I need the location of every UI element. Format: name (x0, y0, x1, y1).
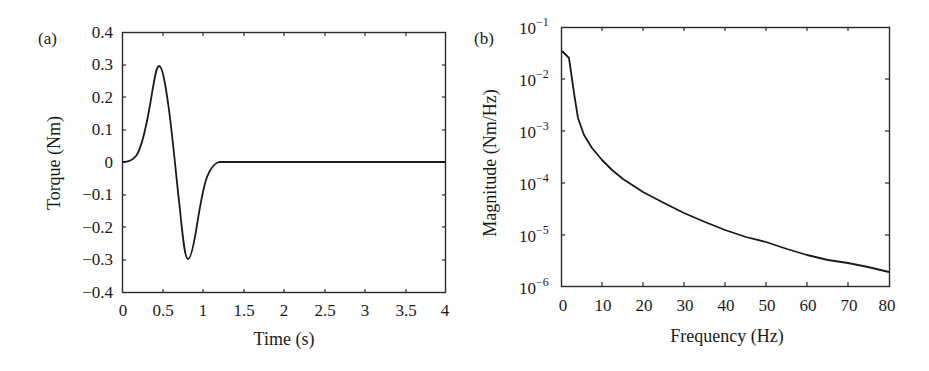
x-tick-label: 20 (636, 296, 653, 315)
y-tick-label: −0.3 (82, 250, 113, 269)
panel-label-b: (b) (474, 29, 494, 48)
y-axis-label-b: Magnitude (Nm/Hz) (480, 89, 501, 236)
y-tick-label: 10−4 (519, 171, 549, 194)
x-tick-label: 30 (677, 296, 694, 315)
x-tick-label: 0.5 (152, 301, 173, 320)
x-tick-label: 1.5 (233, 301, 254, 320)
x-tick-labels-a: 0 0.5 1 1.5 2 2.5 3 3.5 4 (119, 301, 450, 320)
x-tick-label: 80 (879, 296, 896, 315)
x-tick-label: 10 (595, 296, 612, 315)
chart-b: (b) 10−1 10−2 10−3 10−4 10−5 10−6 Magnit… (474, 15, 896, 347)
magnitude-curve (562, 51, 889, 272)
x-axis-label-b: Frequency (Hz) (670, 326, 783, 347)
y-tick-labels-a: 0.4 0.3 0.2 0.1 0 −0.1 −0.2 −0.3 −0.4 (82, 23, 113, 302)
x-tick-label: 1 (199, 301, 208, 320)
x-tick-label: 60 (800, 296, 817, 315)
x-tick-label: 0 (559, 296, 568, 315)
plot-frame-b (562, 28, 890, 287)
y-tick-label: 10−6 (519, 275, 549, 298)
x-tick-label: 40 (718, 296, 735, 315)
y-tick-label: 10−3 (519, 119, 549, 142)
x-tick-label: 2.5 (314, 301, 335, 320)
y-tick-label: 0.3 (92, 55, 113, 74)
x-axis-label-a: Time (s) (254, 329, 315, 350)
x-tick-label: 4 (441, 301, 450, 320)
y-tick-label: −0.1 (82, 185, 113, 204)
chart-a: (a) 0.4 0.3 0.2 0.1 0 −0.1 −0.2 −0.3 −0.… (38, 23, 450, 350)
x-tick-labels-b: 0 10 20 30 40 50 60 70 80 (559, 296, 896, 315)
y-tick-label: 0.2 (92, 88, 113, 107)
x-tick-label: 3 (361, 301, 370, 320)
y-tick-label: 0.1 (92, 120, 113, 139)
y-tick-label: −0.2 (82, 218, 113, 237)
x-tick-label: 70 (841, 296, 858, 315)
y-tick-label: 0 (105, 153, 114, 172)
y-tick-label: −0.4 (82, 283, 113, 302)
y-tick-label: 10−2 (519, 67, 549, 90)
x-tick-label: 50 (759, 296, 776, 315)
panel-label-a: (a) (38, 29, 57, 48)
ticks-b (561, 27, 889, 286)
y-axis-label-a: Torque (Nm) (44, 116, 65, 210)
y-tick-labels-b: 10−1 10−2 10−3 10−4 10−5 10−6 (519, 15, 549, 298)
x-tick-label: 0 (119, 301, 128, 320)
y-tick-label: 10−5 (519, 223, 549, 246)
x-tick-label: 2 (280, 301, 289, 320)
figure: (a) 0.4 0.3 0.2 0.1 0 −0.1 −0.2 −0.3 −0.… (0, 0, 929, 371)
y-tick-label: 10−1 (519, 15, 549, 38)
torque-curve (123, 66, 446, 259)
y-tick-label: 0.4 (92, 23, 114, 42)
x-tick-label: 3.5 (395, 301, 416, 320)
